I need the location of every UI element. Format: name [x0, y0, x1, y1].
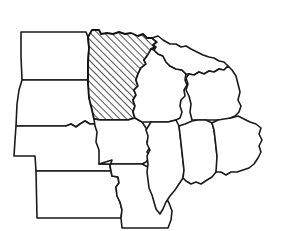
map-figure — [0, 0, 284, 231]
state-sd[interactable] — [16, 80, 97, 127]
state-mi-lp[interactable] — [186, 66, 241, 120]
state-ia[interactable] — [94, 118, 150, 164]
state-in[interactable] — [179, 120, 218, 184]
state-ks[interactable] — [36, 171, 122, 218]
state-nd[interactable] — [21, 32, 89, 80]
map-svg — [0, 0, 284, 231]
